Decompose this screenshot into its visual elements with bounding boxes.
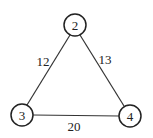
graph-diagram: 2 3 4 12 13 20 xyxy=(0,0,153,138)
edge-2-4-weight: 13 xyxy=(99,52,112,67)
edge-2-4 xyxy=(80,35,124,106)
edge-3-4-weight: 20 xyxy=(68,119,81,134)
node-3-label: 3 xyxy=(19,108,26,123)
node-2-label: 2 xyxy=(72,18,79,33)
edge-2-3 xyxy=(27,35,70,105)
edge-3-4 xyxy=(33,115,119,116)
node-4-label: 4 xyxy=(127,109,134,124)
edge-2-3-weight: 12 xyxy=(37,54,50,69)
